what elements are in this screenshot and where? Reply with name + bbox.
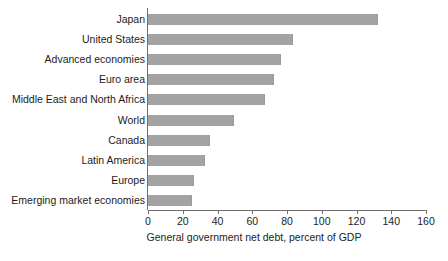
x-axis-tick-label: 80 xyxy=(281,215,293,227)
plot-area xyxy=(148,8,426,210)
x-axis-tick xyxy=(148,210,149,214)
category-label: Japan xyxy=(4,14,148,25)
x-axis-tick-label: 120 xyxy=(348,215,366,227)
bar xyxy=(148,74,274,85)
bar-row xyxy=(148,110,426,130)
bar xyxy=(148,115,234,126)
x-axis-tick-label: 60 xyxy=(246,215,258,227)
bar-row xyxy=(148,171,426,191)
bar-row xyxy=(148,49,426,69)
category-label: Middle East and North Africa xyxy=(4,94,148,105)
x-axis-tick xyxy=(252,210,253,214)
category-label: Emerging market economies xyxy=(4,195,148,206)
x-axis-tick xyxy=(183,210,184,214)
bar xyxy=(148,155,205,166)
x-axis-tick xyxy=(322,210,323,214)
bar-chart: JapanUnited StatesAdvanced economiesEuro… xyxy=(0,0,448,261)
category-axis-labels: JapanUnited StatesAdvanced economiesEuro… xyxy=(0,8,148,210)
bar xyxy=(148,135,210,146)
category-label: Advanced economies xyxy=(4,54,148,65)
category-label: Europe xyxy=(4,175,148,186)
bar xyxy=(148,34,293,45)
x-axis-title: General government net debt, percent of … xyxy=(0,231,448,243)
x-axis-tick-label: 20 xyxy=(177,215,189,227)
x-axis-title-text: General government net debt, percent of … xyxy=(147,231,362,243)
x-axis-tick xyxy=(287,210,288,214)
x-axis-tick xyxy=(357,210,358,214)
bar xyxy=(148,195,192,206)
bar xyxy=(148,175,194,186)
bar-row xyxy=(148,191,426,211)
x-axis-tick-label: 100 xyxy=(313,215,331,227)
x-axis-tick-label: 40 xyxy=(212,215,224,227)
x-axis-tick-label: 0 xyxy=(145,215,151,227)
bar-row xyxy=(148,70,426,90)
category-label: Euro area xyxy=(4,74,148,85)
x-axis-tick xyxy=(391,210,392,214)
bar-row xyxy=(148,150,426,170)
x-axis-tick xyxy=(426,210,427,214)
category-label: United States xyxy=(4,34,148,45)
x-axis-tick-label: 160 xyxy=(417,215,435,227)
x-axis-tick xyxy=(218,210,219,214)
category-label: Canada xyxy=(4,135,148,146)
bar xyxy=(148,14,378,25)
bar xyxy=(148,54,281,65)
bar-row xyxy=(148,130,426,150)
bar xyxy=(148,94,265,105)
bar-row xyxy=(148,9,426,29)
bar-row xyxy=(148,90,426,110)
category-label: World xyxy=(4,115,148,126)
x-axis-tick-label: 140 xyxy=(382,215,400,227)
bar-row xyxy=(148,29,426,49)
category-label: Latin America xyxy=(4,155,148,166)
